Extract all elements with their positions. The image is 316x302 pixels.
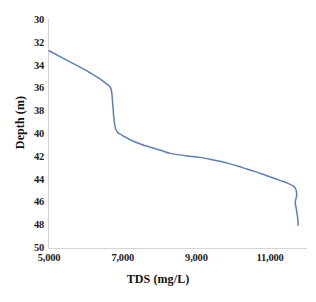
data-series-line: [49, 20, 307, 248]
y-tick-label-48: 48: [4, 220, 44, 230]
y-tick-label-30: 30: [4, 15, 44, 25]
x-axis-title: TDS (mg/L): [0, 272, 316, 287]
tds-profile-line: [49, 51, 298, 225]
y-tick-label-46: 46: [4, 197, 44, 207]
y-axis-title: Depth (m): [13, 63, 28, 183]
x-axis-line: [48, 248, 307, 249]
x-tick-label-5000: 5,000: [14, 252, 84, 263]
plot-area: [49, 20, 307, 248]
x-tick-label-7000: 7,000: [88, 252, 158, 263]
x-tick-label-9000: 9,000: [161, 252, 231, 263]
y-tick-label-32: 32: [4, 38, 44, 48]
chart-container: 3032343638404244464850 5,0007,0009,00011…: [0, 0, 316, 302]
x-tick-label-11000: 11,000: [235, 252, 305, 263]
